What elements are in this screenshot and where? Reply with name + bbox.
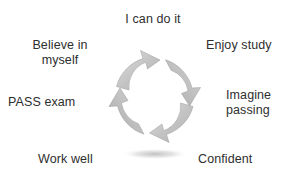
ring-drop-shadow <box>121 149 189 160</box>
label-confident: Confident <box>198 152 298 167</box>
label-pass-exam: PASS exam <box>8 95 108 110</box>
cycle-arrow-ring <box>103 42 207 160</box>
diagram-title: I can do it <box>0 12 306 27</box>
circular-arrow-graphic <box>103 42 207 160</box>
label-believe-in-myself: Believe in myself <box>10 38 110 67</box>
label-enjoy-study: Enjoy study <box>206 38 302 53</box>
ring-inner-hole <box>131 73 179 121</box>
label-imagine-passing: Imagine passing <box>226 88 306 117</box>
diagram-canvas: I can do it <box>0 0 306 174</box>
label-work-well: Work well <box>38 152 128 167</box>
